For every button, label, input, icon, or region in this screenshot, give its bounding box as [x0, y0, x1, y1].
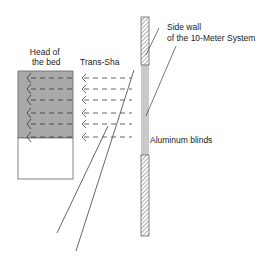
wall-lower — [141, 155, 149, 236]
bed — [18, 71, 73, 179]
light-arrow-icon — [82, 109, 132, 117]
light-arrow-icon — [82, 74, 132, 82]
side-wall-line1: Side wall — [167, 22, 255, 32]
wall-upper — [141, 17, 149, 65]
head-of-bed-line1: Head of — [29, 47, 60, 57]
side-wall-line2: of the 10-Meter System — [167, 33, 255, 43]
bed-shaded-region — [18, 71, 73, 138]
light-arrow-icon — [82, 85, 132, 93]
bed-lower-region — [18, 138, 73, 179]
light-arrow-icon — [82, 133, 132, 141]
film-leader — [146, 46, 176, 116]
head-of-bed-label: Head of the bed — [29, 47, 60, 67]
side-wall-label: Side wall of the 10-Meter System — [167, 22, 255, 43]
head-of-bed-line2: the bed — [29, 57, 60, 67]
aluminum-blinds — [142, 65, 148, 155]
light-arrow-icon — [82, 120, 132, 128]
aluminum-blinds-label: Aluminum blinds — [150, 135, 212, 145]
light-arrows — [82, 74, 132, 141]
trans-sha-label: Trans-Sha — [80, 57, 119, 67]
